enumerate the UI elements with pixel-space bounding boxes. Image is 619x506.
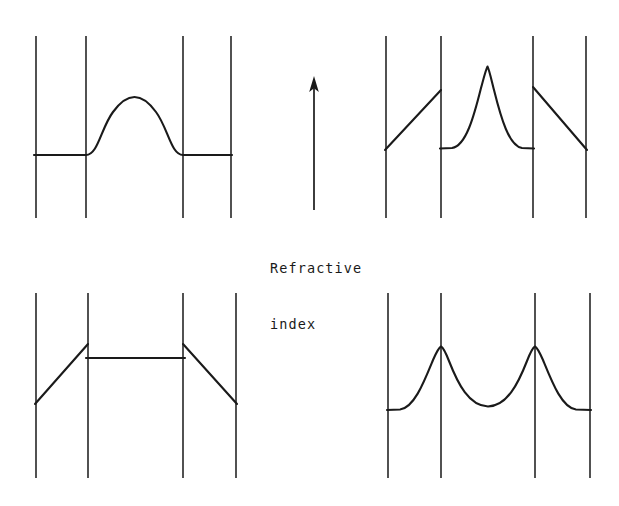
profile-center-cusp — [440, 67, 534, 149]
panel-bottom-left — [35, 293, 237, 478]
axis-caption: Refractive index — [270, 222, 362, 371]
profile-right-ramp — [183, 344, 237, 404]
refractive-index-axis-arrow — [309, 76, 319, 210]
refractive-index-figure: Refractive index — [0, 0, 619, 506]
profile-step-dome — [34, 97, 232, 155]
profile-left-ramp — [35, 344, 88, 404]
profile-right-ramp — [533, 87, 587, 150]
profile-left-ramp — [385, 90, 441, 150]
profile-double-cusp — [387, 347, 591, 411]
panel-bottom-right — [387, 293, 591, 478]
axis-caption-line-1: Refractive — [270, 259, 362, 278]
panel-top-right — [385, 36, 587, 218]
axis-caption-line-2: index — [270, 315, 362, 334]
panel-top-left — [34, 36, 232, 218]
